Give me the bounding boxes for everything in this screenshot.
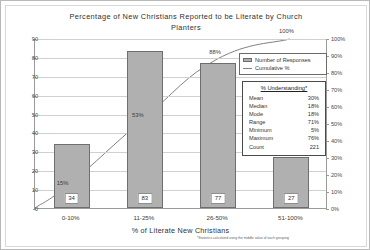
y-axis-right-tick-label: 20% (331, 172, 361, 178)
y-axis-right-tick-label: 80% (331, 70, 361, 76)
statistics-row-value: 221 (310, 143, 319, 151)
statistics-row-label: Range (249, 118, 265, 126)
y-axis-left-tick-label: 20 (16, 168, 38, 174)
statistics-row: Maximum76% (249, 134, 319, 142)
y-axis-right-tick-label: 60% (331, 104, 361, 110)
statistics-row-value: 18% (308, 102, 319, 110)
statistics-row: Mean30% (249, 94, 319, 102)
y-axis-right-tick-label: 50% (331, 121, 361, 127)
statistics-row: Count221 (249, 143, 319, 151)
bar-value-label: 77 (211, 193, 226, 204)
gridline (35, 39, 326, 40)
y-axis-right-tick-label: 40% (331, 138, 361, 144)
bar[interactable]: 77 (200, 63, 236, 208)
y-axis-left-tick-label: 10 (16, 187, 38, 193)
y-axis-left-tick-label: 0 (16, 206, 38, 212)
statistics-row: Minimum5% (249, 126, 319, 134)
line-swatch-icon (243, 66, 252, 71)
cumulative-percent-label: 53% (132, 112, 144, 118)
y-axis-right-tick-label: 70% (331, 87, 361, 93)
statistics-row: Median18% (249, 102, 319, 110)
chart-legend: Number of Responses Cumulative % (239, 53, 327, 75)
y-axis-left-tick-label: 50 (16, 112, 38, 118)
x-axis-tick-label: 11-25% (111, 214, 177, 221)
cumulative-percent-label: 88% (209, 49, 221, 55)
statistics-row-value: 76% (308, 134, 319, 142)
chart-container: Percentage of New Christians Reported to… (0, 0, 370, 250)
y-axis-right-tick-label: 90% (331, 53, 361, 59)
x-axis-title: % of Literate New Christians (34, 226, 327, 235)
bar-value-label: 83 (138, 193, 153, 204)
y-axis-left-tick-label: 80 (16, 55, 38, 61)
statistics-box-title: % Understanding* (249, 85, 319, 91)
bar[interactable]: 83 (127, 51, 163, 208)
statistics-row-label: Maximum (249, 134, 273, 142)
y-axis-right-tick-label: 30% (331, 155, 361, 161)
statistics-row-label: Mode (249, 110, 263, 118)
x-axis-tick-label: 51-100% (257, 214, 323, 221)
y-axis-right-tick-label: 10% (331, 189, 361, 195)
legend-item-number-of-responses: Number of Responses (243, 56, 323, 64)
bar-swatch-icon (243, 58, 252, 63)
statistics-row-value: 5% (311, 126, 319, 134)
y-axis-right-tickmark (326, 175, 329, 176)
y-axis-left-tick-label: 60 (16, 93, 38, 99)
cumulative-percent-label: 15% (57, 180, 69, 186)
cumulative-percent-label: 100% (279, 28, 294, 34)
statistics-box: % Understanding* Mean30%Median18%Mode18%… (242, 81, 326, 156)
y-axis-left-tick-label: 90 (16, 36, 38, 42)
bar-value-label: 27 (284, 193, 299, 204)
y-axis-right-tickmark (326, 158, 329, 159)
y-axis-right-tick-label: 100% (331, 36, 361, 42)
x-axis-tick-label: 0-10% (38, 214, 104, 221)
bar[interactable]: 34 (54, 144, 90, 208)
chart-footnote: *Statistics calculated using the middle … (197, 236, 337, 240)
statistics-row-label: Minimum (249, 126, 272, 134)
bar[interactable]: 27 (273, 157, 309, 208)
statistics-row-label: Mean (249, 94, 263, 102)
x-axis-tick-label: 26-50% (184, 214, 250, 221)
statistics-rows: Mean30%Median18%Mode18%Range71%Minimum5%… (249, 94, 319, 151)
bar-value-label: 34 (64, 193, 79, 204)
legend-label-cumulative-percent: Cumulative % (255, 65, 290, 71)
y-axis-right-tick-label: 0% (331, 206, 361, 212)
legend-item-cumulative-percent: Cumulative % (243, 64, 323, 72)
statistics-row: Mode18% (249, 110, 319, 118)
statistics-row-value: 30% (308, 94, 319, 102)
statistics-row-label: Count (249, 143, 264, 151)
statistics-row: Range71% (249, 118, 319, 126)
y-axis-right-tickmark (326, 39, 329, 40)
statistics-row-label: Median (249, 102, 267, 110)
y-axis-left-tick-label: 70 (16, 74, 38, 80)
legend-label-number-of-responses: Number of Responses (255, 57, 311, 63)
y-axis-left-tick-label: 30 (16, 149, 38, 155)
chart-title-line-1: Percentage of New Christians Reported to… (41, 12, 331, 23)
y-axis-right-tickmark (326, 209, 329, 210)
statistics-row-value: 18% (308, 110, 319, 118)
gridline (35, 77, 326, 78)
statistics-row-value: 71% (308, 118, 319, 126)
y-axis-left-tick-label: 40 (16, 130, 38, 136)
y-axis-right-tickmark (326, 192, 329, 193)
